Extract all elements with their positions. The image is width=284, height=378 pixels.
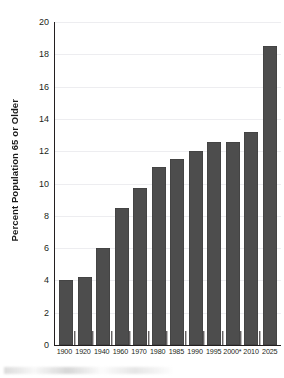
x-axis-tick-label: 1970 bbox=[130, 347, 149, 363]
bar-slot bbox=[113, 22, 132, 345]
x-axis-tick-label: 1940 bbox=[92, 347, 111, 363]
y-axis-title: Percent Population 65 or Older bbox=[2, 0, 26, 340]
x-axis-tick-label: 1980 bbox=[148, 347, 167, 363]
y-axis-tick-label: 2 bbox=[44, 308, 49, 318]
y-axis-tick-label: 8 bbox=[44, 211, 49, 221]
bar-slot bbox=[94, 22, 113, 345]
y-axis-tick-labels: 02468101214161820 bbox=[22, 22, 52, 345]
bar-1995 bbox=[207, 142, 221, 345]
bar-slot bbox=[205, 22, 224, 345]
y-axis-tick-label: 6 bbox=[44, 243, 49, 253]
bars-layer bbox=[55, 22, 281, 345]
bar-slot bbox=[261, 22, 280, 345]
x-axis-tick-label: 1990 bbox=[186, 347, 205, 363]
bar-slot bbox=[187, 22, 206, 345]
y-axis-tick-label: 0 bbox=[44, 340, 49, 350]
y-axis-tick-label: 10 bbox=[39, 179, 49, 189]
x-axis-tick-label: 1985 bbox=[167, 347, 186, 363]
bar-slot bbox=[224, 22, 243, 345]
x-axis-tick-label: 1995 bbox=[204, 347, 223, 363]
scan-artifact bbox=[4, 367, 172, 374]
bar-2000 bbox=[226, 142, 240, 345]
bar-1985 bbox=[170, 159, 184, 345]
plot-area bbox=[54, 22, 281, 346]
bar-slot bbox=[57, 22, 76, 345]
y-axis-tick-label: 20 bbox=[39, 17, 49, 27]
bar-1920 bbox=[78, 277, 92, 345]
bar-1960 bbox=[115, 208, 129, 345]
bar-2025 bbox=[263, 46, 277, 345]
bar-slot bbox=[76, 22, 95, 345]
bar-2010 bbox=[244, 132, 258, 345]
x-axis-tick-label: 1900 bbox=[55, 347, 74, 363]
bar-slot bbox=[242, 22, 261, 345]
bar-chart-figure: Percent Population 65 or Older 024681012… bbox=[0, 0, 284, 378]
x-axis-tick-label: 1960 bbox=[111, 347, 130, 363]
y-axis-tick-label: 18 bbox=[39, 49, 49, 59]
bar-1980 bbox=[152, 167, 166, 345]
bar-1900 bbox=[59, 280, 73, 345]
y-axis-title-text: Percent Population 65 or Older bbox=[9, 99, 20, 241]
bar-1940 bbox=[96, 248, 110, 345]
x-axis-tick-label: 2000* bbox=[223, 347, 242, 363]
y-axis-tick-label: 14 bbox=[39, 114, 49, 124]
bar-1970 bbox=[133, 188, 147, 345]
y-axis-tick-label: 16 bbox=[39, 82, 49, 92]
bar-slot bbox=[150, 22, 169, 345]
y-axis-tick-label: 4 bbox=[44, 275, 49, 285]
bar-slot bbox=[131, 22, 150, 345]
x-axis-tick-label: 2025 bbox=[260, 347, 279, 363]
bar-1990 bbox=[189, 151, 203, 345]
bar-slot bbox=[168, 22, 187, 345]
x-axis-tick-label: 1920 bbox=[74, 347, 93, 363]
x-axis-tick-labels: 1900192019401960197019801985199019952000… bbox=[54, 347, 280, 363]
x-axis-tick-label: 2010 bbox=[242, 347, 261, 363]
y-axis-tick-label: 12 bbox=[39, 146, 49, 156]
